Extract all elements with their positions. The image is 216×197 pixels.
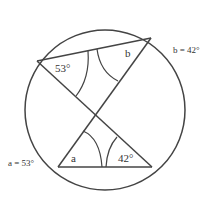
angle-label-top-left: 53° [55, 62, 70, 74]
angle-label-bottom-right: 42° [118, 152, 133, 164]
angle-arc-bottom-right [106, 137, 117, 167]
angle-arc-bottom-left [83, 131, 102, 167]
angle-label-top-right: b [125, 47, 131, 59]
result-label-b: b = 42° [173, 45, 200, 55]
top-chord [37, 38, 151, 61]
angle-arc-top-right [97, 49, 118, 81]
diagonal-chord-2 [58, 38, 151, 167]
result-label-a: a = 53° [8, 158, 34, 168]
diagonal-chord-1 [37, 61, 152, 167]
angle-arc-top-left [76, 51, 88, 96]
circle [25, 30, 185, 190]
circle-geometry-diagram: 53° b a 42° b = 42° a = 53° [0, 0, 216, 197]
angle-label-bottom-left: a [71, 152, 76, 164]
